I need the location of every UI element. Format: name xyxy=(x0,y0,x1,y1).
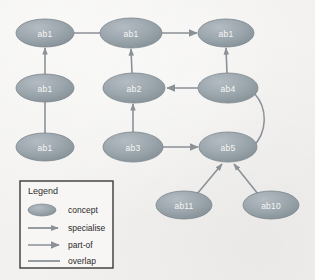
node-ab1-bottom-left[interactable]: ab1 xyxy=(16,133,74,161)
node-label: ab5 xyxy=(221,143,236,153)
node-label: ab1 xyxy=(38,84,53,94)
legend: Legend concept specialise part-of overla… xyxy=(20,181,113,268)
node-label: ab3 xyxy=(126,143,141,153)
node-ab11[interactable]: ab11 xyxy=(156,191,212,219)
node-ab3[interactable]: ab3 xyxy=(103,132,163,162)
node-ab2[interactable]: ab2 xyxy=(103,73,165,103)
diagram-canvas: ab1 ab1 ab1 ab1 ab2 ab3 xyxy=(0,0,315,280)
node-label: ab1 xyxy=(124,29,139,39)
node-label: ab1 xyxy=(219,29,234,39)
concept-map-svg: ab1 ab1 ab1 ab1 ab2 ab3 xyxy=(0,0,315,280)
edge-specialise-ab10-ab5 xyxy=(234,164,258,194)
node-ab4[interactable]: ab4 xyxy=(198,73,258,103)
legend-item-label: specialise xyxy=(68,223,106,233)
legend-title: Legend xyxy=(28,186,58,196)
node-ab1-top-center[interactable]: ab1 xyxy=(100,18,162,48)
node-ab5[interactable]: ab5 xyxy=(199,132,257,162)
node-ab1-top-left[interactable]: ab1 xyxy=(16,19,74,47)
node-ab1-mid-left[interactable]: ab1 xyxy=(16,74,74,102)
node-label: ab4 xyxy=(221,84,236,94)
node-ab1-top-right[interactable]: ab1 xyxy=(198,19,254,47)
legend-item-label: overlap xyxy=(68,256,96,266)
legend-item-label: concept xyxy=(68,205,98,215)
node-label: ab10 xyxy=(261,201,281,211)
node-label: ab1 xyxy=(38,29,53,39)
node-label: ab1 xyxy=(38,143,53,153)
node-label: ab2 xyxy=(127,84,142,94)
node-label: ab11 xyxy=(174,201,193,211)
node-ab10[interactable]: ab10 xyxy=(243,191,299,219)
concept-ellipse-icon xyxy=(28,204,56,216)
edge-layer xyxy=(45,33,264,194)
edge-specialise-ab4-ab1 xyxy=(226,48,227,73)
edge-specialise-ab11-ab5 xyxy=(197,164,222,194)
edge-specialise-ab2-ab1 xyxy=(131,49,132,73)
legend-item-label: part-of xyxy=(68,240,93,250)
